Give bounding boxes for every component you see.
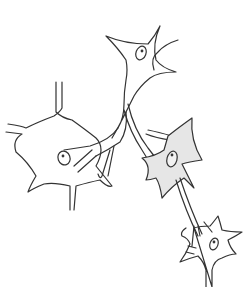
axon-a-left [64, 112, 126, 156]
cell-b-nucleus [56, 149, 72, 166]
neuron-diagram [0, 0, 250, 287]
cell-a-nucleus [134, 45, 148, 62]
cell-d-nucleus [208, 237, 220, 251]
axon-a-branch-b1 [74, 150, 96, 172]
cell-d-body [180, 216, 242, 287]
cell-a-body [106, 26, 176, 138]
caption-pointer [153, 40, 178, 70]
cell-b-body [6, 82, 112, 210]
